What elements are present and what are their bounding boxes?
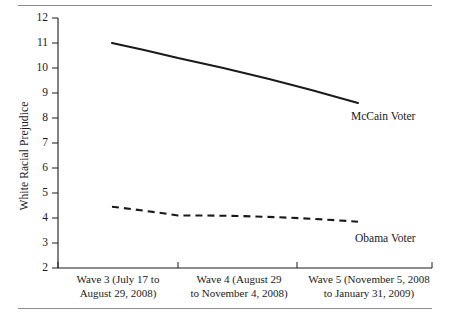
x-category-wave-4-line-2: to November 4, 2008) (180, 286, 298, 300)
x-category-wave-5-line-1: Wave 5 (November 5, 2008 (300, 272, 438, 286)
x-category-wave-3: Wave 3 (July 17 to August 29, 2008) (58, 272, 178, 300)
x-category-wave-3-line-1: Wave 3 (July 17 to (58, 272, 178, 286)
x-category-wave-4: Wave 4 (August 29 to November 4, 2008) (180, 272, 298, 300)
series-line-mccain-voter (112, 43, 358, 103)
y-tick-marks (52, 18, 58, 268)
y-tick-label-10: 10 (26, 62, 48, 73)
x-category-wave-4-line-1: Wave 4 (August 29 (180, 272, 298, 286)
series-label-obama-voter: Obama Voter (355, 232, 416, 244)
x-category-wave-5: Wave 5 (November 5, 2008 to January 31, … (300, 272, 438, 300)
x-tick-marks (58, 262, 432, 268)
series-line-obama-voter (112, 207, 358, 222)
figure: 12 11 10 9 8 7 6 5 4 3 2 White Racial Pr… (0, 0, 450, 320)
series-label-mccain-voter: McCain Voter (351, 110, 415, 122)
x-category-wave-3-line-2: August 29, 2008) (58, 286, 178, 300)
y-tick-label-12: 12 (26, 12, 48, 23)
y-tick-label-2: 2 (26, 262, 48, 273)
y-axis-label: White Racial Prejudice (18, 86, 30, 226)
y-tick-label-3: 3 (26, 237, 48, 248)
x-category-wave-5-line-2: to January 31, 2009) (300, 286, 438, 300)
y-tick-label-11: 11 (26, 37, 48, 48)
